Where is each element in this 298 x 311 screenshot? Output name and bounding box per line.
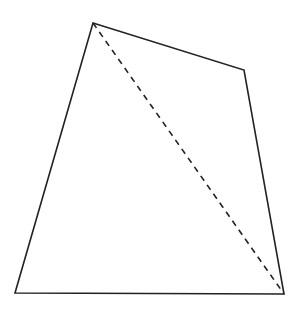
- quadrilateral-diagram: [0, 0, 298, 311]
- quadrilateral-outline: [15, 23, 284, 294]
- dashed-diagonal: [93, 23, 284, 294]
